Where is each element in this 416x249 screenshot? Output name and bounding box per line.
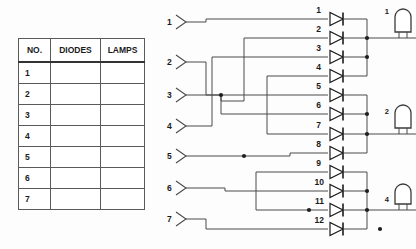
input-terminal-5[interactable]: 5 [167,149,186,163]
diode-9[interactable]: 9 [316,158,358,179]
diode-11[interactable]: 11 [315,196,358,217]
wire-input-2 [186,62,328,95]
junction-dot [365,189,369,193]
diode-label: 3 [316,43,321,53]
input-terminal-label: 6 [167,183,172,193]
input-terminal-label: 2 [167,57,172,67]
input-terminal-label: 4 [167,121,172,131]
input-terminal-3[interactable]: 3 [167,88,186,102]
lamp-array: 1 2 4 [385,7,416,210]
diode-label: 9 [316,158,321,168]
input-terminal-label: 5 [167,151,172,161]
diode-12[interactable]: 12 [315,215,358,236]
diode-label: 1 [316,5,321,15]
junction-dot [307,208,311,212]
junction-dot [365,132,369,136]
diode-10[interactable]: 10 [315,177,358,198]
lamp-2[interactable]: 2 [385,105,416,134]
lamp-label: 1 [385,7,389,16]
input-terminal-label: 1 [167,17,172,27]
junction-dot [242,154,246,158]
input-terminal-7[interactable]: 7 [167,212,186,226]
junction-dot [365,208,369,212]
input-terminal-1[interactable]: 1 [167,15,186,29]
schematic-page: NO. DIODES LAMPS 1 2 3 4 [0,0,416,249]
wire-input-6 [186,188,328,191]
diode-7[interactable]: 7 [316,120,358,141]
diode-5[interactable]: 5 [316,81,358,102]
diode-8[interactable]: 8 [316,139,358,160]
diode-label: 2 [316,24,321,34]
junction-dot [219,93,223,97]
diode-label: 12 [315,215,325,225]
diode-4[interactable]: 4 [316,62,358,83]
input-terminal-2[interactable]: 2 [167,55,186,69]
diode-1[interactable]: 1 [316,5,358,26]
bus-group-b [358,95,367,153]
lamp-label: 4 [385,195,390,204]
input-routing-wires [186,19,328,229]
bus-group-c [358,172,367,229]
input-terminal-label: 3 [167,90,172,100]
wire-input-5 [186,153,328,156]
diode-label: 4 [316,62,321,72]
diode-3[interactable]: 3 [316,43,358,64]
input-terminals: 1 2 3 4 5 6 7 [167,15,186,226]
input-terminal-label: 7 [167,214,172,224]
bus-group-a [358,19,367,76]
diode-array: 1 2 3 4 [315,5,358,236]
wire-input-1 [186,19,328,22]
junction-dot [365,36,369,40]
lamp-label: 2 [385,107,389,116]
wire-branch-3b [221,95,328,114]
diode-label: 8 [316,139,321,149]
circuit-diagram: 1 2 3 4 5 6 7 [0,0,416,249]
input-terminal-6[interactable]: 6 [167,181,186,195]
diode-2[interactable]: 2 [316,24,358,45]
diode-6[interactable]: 6 [316,100,358,121]
lamp-1[interactable]: 1 [385,7,416,38]
wire-input-3 [186,38,328,101]
junction-dot [365,112,369,116]
diode-label: 7 [316,120,321,130]
diode-label: 6 [316,100,321,110]
junction-dot [365,55,369,59]
lamp-4[interactable]: 4 [385,184,416,210]
wire-input-7 [186,219,328,229]
diode-label: 10 [315,177,325,187]
input-terminal-4[interactable]: 4 [167,119,186,133]
diode-label: 11 [315,196,324,206]
diode-label: 5 [316,81,321,91]
wire-input-4 [186,57,328,126]
junction-dot [378,227,382,231]
